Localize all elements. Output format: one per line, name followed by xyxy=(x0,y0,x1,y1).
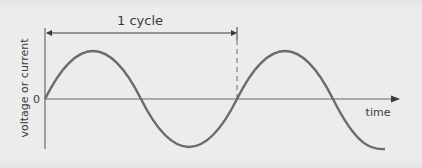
sine-wave xyxy=(45,51,385,149)
cycle-label: 1 cycle xyxy=(117,13,163,28)
diagram-frame: 1 cycle 0 time voltage or current xyxy=(0,0,422,168)
x-axis-label: time xyxy=(366,106,391,119)
sine-wave-diagram: 1 cycle 0 time voltage or current xyxy=(0,0,422,168)
y-axis-label: voltage or current xyxy=(18,38,31,138)
origin-label: 0 xyxy=(33,93,40,106)
